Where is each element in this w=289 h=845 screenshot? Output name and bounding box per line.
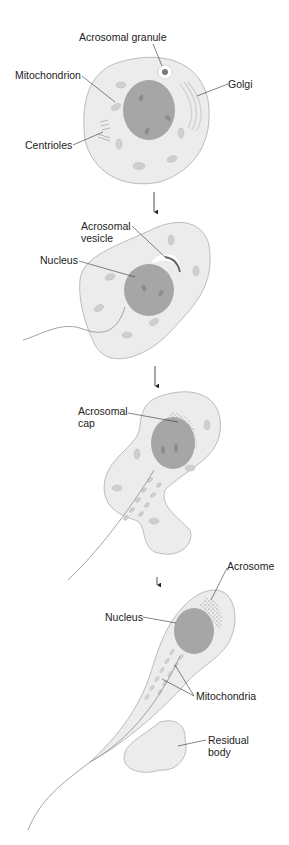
spermiogenesis-diagram <box>0 0 289 845</box>
stage-1-cell <box>73 44 228 184</box>
label-nucleus-stage-4: Nucleus <box>105 611 143 623</box>
stage-2-nucleus <box>124 264 174 316</box>
label-acrosomal-granule: Acrosomal granule <box>79 31 167 43</box>
label-mitochondrion: Mitochondrion <box>15 69 81 81</box>
label-nucleus-stage-2: Nucleus <box>40 254 78 266</box>
label-mitochondria: Mitochondria <box>196 690 256 702</box>
label-acrosomal-vesicle: Acrosomal vesicle <box>81 220 131 244</box>
label-golgi: Golgi <box>228 78 253 90</box>
stage-3-nucleus <box>151 417 195 469</box>
label-residual-body: Residual body <box>208 734 249 758</box>
label-centrioles: Centrioles <box>25 139 72 151</box>
label-acrosomal-cap: Acrosomal cap <box>78 405 128 429</box>
stage-4-nucleus <box>174 608 214 654</box>
label-acrosome: Acrosome <box>227 560 274 572</box>
